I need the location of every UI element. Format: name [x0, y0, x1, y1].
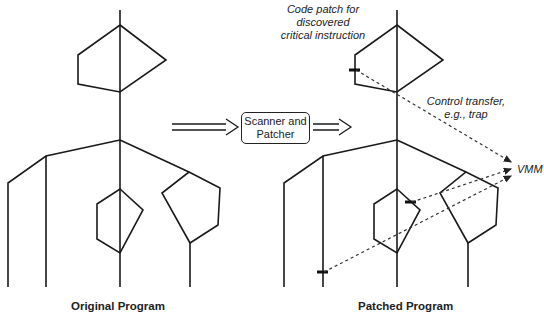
scanner-patcher-line2: Patcher — [242, 128, 309, 141]
patch-markers — [317, 70, 416, 272]
control-transfer-line2: e.g., trap — [418, 108, 514, 121]
code-patch-line1: Code patch for — [268, 3, 378, 16]
original-program-graph — [8, 10, 220, 287]
code-patch-line3: critical instruction — [268, 29, 378, 42]
scanner-patcher-line1: Scanner and — [242, 115, 309, 128]
arrow-from-patcher — [313, 119, 351, 135]
code-patch-line2: discovered — [268, 16, 378, 29]
patched-program-caption: Patched Program — [358, 300, 453, 312]
control-transfer-line1: Control transfer, — [418, 95, 514, 108]
diagram-canvas — [0, 0, 544, 322]
original-program-caption: Original Program — [71, 300, 165, 312]
arrow-to-scanner — [172, 119, 238, 135]
scanner-patcher-box: Scanner and Patcher — [241, 112, 310, 144]
vmm-label: VMM — [517, 163, 543, 175]
code-patch-annotation: Code patch for discovered critical instr… — [268, 3, 378, 42]
patched-program-graph — [284, 10, 498, 287]
control-transfer-annotation: Control transfer, e.g., trap — [418, 95, 514, 121]
